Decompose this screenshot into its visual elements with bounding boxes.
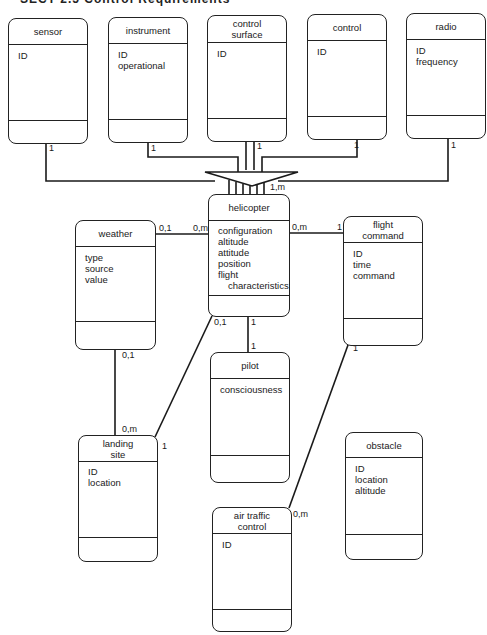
entity-title: control [308, 15, 386, 41]
entity-operations [9, 120, 87, 121]
attribute: consciousness [220, 384, 285, 395]
card-weather-landing-site-weather: 0,1 [122, 350, 135, 360]
attribute: source [85, 263, 151, 274]
entity-title: helicopter [209, 195, 289, 221]
entity-title: radio [407, 14, 485, 40]
attribute: location [88, 477, 153, 488]
entity-attributes: ID frequency [416, 45, 481, 67]
title-line: site [103, 449, 134, 460]
card-flight-command-atc-atc: 0,m [293, 509, 308, 519]
title-line: flight [362, 219, 404, 230]
entity-flight-command[interactable]: flight command ID time command [343, 216, 423, 346]
entity-title: control surface [208, 16, 286, 43]
entity-sensor[interactable]: sensor ID [8, 18, 88, 144]
entity-obstacle[interactable]: obstacle ID location altitude [345, 432, 423, 560]
attribute: ID [88, 466, 153, 477]
attribute: characteristics [218, 280, 285, 291]
attribute: ID [353, 248, 418, 259]
entity-instrument[interactable]: instrument ID operational [108, 17, 188, 143]
entity-title: weather [76, 221, 155, 247]
line-helicopter-landing-site [155, 316, 212, 437]
attribute: position [218, 258, 285, 269]
attribute: configuration [218, 225, 285, 236]
entity-operations [208, 118, 286, 119]
attribute: ID [317, 46, 382, 57]
attribute: ID [222, 539, 287, 550]
entity-control-surface[interactable]: control surface ID [207, 15, 287, 142]
title-line: control [231, 18, 262, 29]
title-line: air traffic [234, 510, 270, 521]
entity-title: landing site [79, 436, 157, 462]
card-weather-landing-site-landing-site: 0,m [122, 424, 137, 434]
entity-helicopter[interactable]: helicopter configuration altitude attitu… [208, 194, 290, 317]
attribute: location [355, 474, 418, 485]
entity-landing-site[interactable]: landing site ID location [78, 435, 158, 562]
entity-attributes: ID [317, 46, 382, 57]
card-helicopter-landing-site-helicopter: 0,1 [214, 317, 227, 327]
attribute: time [353, 259, 418, 270]
entity-operations [346, 534, 422, 535]
attribute: operational [118, 60, 183, 71]
card-helicopter-pilot-helicopter: 1 [251, 317, 256, 327]
entity-operations [109, 119, 187, 120]
attribute: type [85, 252, 151, 263]
attribute: value [85, 274, 151, 285]
card-instrument: 1 [151, 143, 156, 153]
entity-operations [79, 537, 157, 538]
title-line: landing [103, 438, 134, 449]
entity-weather[interactable]: weather type source value [75, 220, 156, 350]
entity-operations [211, 455, 289, 456]
entity-operations [344, 318, 422, 319]
card-sensor: 1 [49, 143, 54, 153]
entity-title: air traffic control [213, 508, 291, 534]
attribute: ID [217, 48, 282, 59]
line-sensor-helicopter [46, 143, 215, 181]
entity-attributes: ID operational [118, 49, 183, 71]
attribute: altitude [218, 236, 285, 247]
entity-attributes: type source value [85, 252, 151, 285]
entity-operations [213, 609, 291, 610]
entity-title: flight command [344, 217, 422, 243]
entity-attributes: ID [18, 50, 83, 61]
attribute: ID [118, 49, 183, 60]
entity-operations [76, 321, 155, 322]
entity-operations [308, 116, 386, 117]
entity-pilot[interactable]: pilot consciousness [210, 352, 290, 483]
entity-operations [407, 115, 485, 116]
title-line: surface [231, 29, 262, 40]
line-flight-command-air-traffic-control [289, 345, 348, 508]
entity-title: instrument [109, 18, 187, 44]
entity-title: obstacle [346, 433, 422, 458]
entity-attributes: ID location altitude [355, 463, 418, 496]
card-radio: 1 [451, 140, 456, 150]
card-weather-helicopter-weather: 0,1 [159, 223, 172, 233]
card-weather-helicopter-helicopter: 0,m [193, 223, 208, 233]
entity-title: pilot [211, 353, 289, 379]
entity-attributes: ID [217, 48, 282, 59]
attribute: altitude [355, 485, 418, 496]
line-radio-helicopter [278, 138, 448, 181]
title-line: command [362, 230, 404, 241]
attribute: attitude [218, 247, 285, 258]
entity-attributes: consciousness [220, 384, 285, 395]
attribute: frequency [416, 56, 481, 67]
card-aggregation-helicopter: 1,m [270, 182, 285, 192]
attribute: flight [218, 269, 285, 280]
entity-attributes: ID [222, 539, 287, 550]
entity-radio[interactable]: radio ID frequency [406, 13, 486, 139]
attribute: command [353, 270, 418, 281]
entity-operations [209, 295, 289, 296]
card-helicopter-flight-command-flight-command: 1 [337, 222, 342, 232]
entity-attributes: ID time command [353, 248, 418, 281]
card-helicopter-pilot-pilot: 1 [251, 341, 256, 351]
card-helicopter-landing-site-landing-site: 1 [162, 441, 167, 451]
card-helicopter-flight-command-helicopter: 0,m [292, 222, 307, 232]
attribute: ID [18, 50, 83, 61]
entity-control[interactable]: control ID [307, 14, 387, 140]
entity-air-traffic-control[interactable]: air traffic control ID [212, 507, 292, 632]
card-control: 1 [354, 140, 359, 150]
entity-attributes: configuration altitude attitude position… [218, 225, 285, 291]
attribute: ID [416, 45, 481, 56]
card-control-surface: 1 [257, 141, 262, 151]
entity-attributes: ID location [88, 466, 153, 488]
